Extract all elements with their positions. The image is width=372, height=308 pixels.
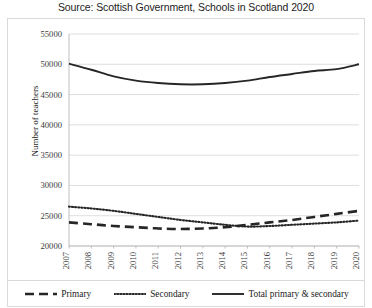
legend-item-secondary: Secondary <box>114 289 189 299</box>
x-tick-label: 2007 <box>61 251 71 269</box>
plot-svg: 2000025000300003500040000450005000055000… <box>8 19 366 282</box>
x-tick-label: 2016 <box>262 251 272 269</box>
series-line-primary <box>69 211 359 229</box>
x-tick-label: 2018 <box>306 252 316 269</box>
y-tick-label: 45000 <box>41 90 62 100</box>
dotted-line-icon <box>114 290 146 298</box>
x-axis-tick-labels: 2007200820092010201120122013201420152016… <box>61 246 361 269</box>
legend: Primary Secondary Total primary & second… <box>7 281 365 307</box>
series-line-total <box>69 64 359 85</box>
x-tick-label: 2015 <box>239 252 249 269</box>
gridlines <box>69 34 359 246</box>
dashed-line-icon <box>25 290 57 298</box>
x-tick-label: 2011 <box>150 252 160 269</box>
x-tick-label: 2014 <box>217 251 227 269</box>
x-tick-label: 2012 <box>173 252 183 269</box>
legend-label-primary: Primary <box>61 289 91 299</box>
x-tick-label: 2020 <box>351 252 361 269</box>
data-series-group <box>69 64 359 229</box>
x-tick-label: 2008 <box>83 252 93 269</box>
legend-label-total: Total primary & secondary <box>248 289 348 299</box>
x-tick-label: 2013 <box>195 252 205 269</box>
chart-title: Source: Scottish Government, Schools in … <box>0 1 372 13</box>
y-tick-label: 40000 <box>41 120 62 130</box>
legend-row: Primary Secondary Total primary & second… <box>8 281 366 307</box>
plot-area: Number of teachers 200002500030000350004… <box>7 18 365 281</box>
series-line-secondary <box>69 207 359 227</box>
x-tick-label: 2017 <box>284 251 294 269</box>
y-tick-label: 50000 <box>41 59 62 69</box>
legend-label-secondary: Secondary <box>150 289 189 299</box>
legend-item-primary: Primary <box>25 289 91 299</box>
y-tick-label: 25000 <box>41 211 62 221</box>
y-tick-label: 55000 <box>41 29 62 39</box>
y-tick-label: 20000 <box>41 241 62 251</box>
legend-item-total: Total primary & secondary <box>212 289 348 299</box>
y-tick-label: 30000 <box>41 180 62 190</box>
chart-container: Source: Scottish Government, Schools in … <box>0 0 372 308</box>
x-tick-label: 2010 <box>128 252 138 269</box>
y-axis-tick-labels: 2000025000300003500040000450005000055000 <box>41 29 62 251</box>
x-tick-label: 2019 <box>329 252 339 269</box>
x-tick-label: 2009 <box>106 252 116 269</box>
solid-line-icon <box>212 290 244 298</box>
y-tick-label: 35000 <box>41 150 62 160</box>
